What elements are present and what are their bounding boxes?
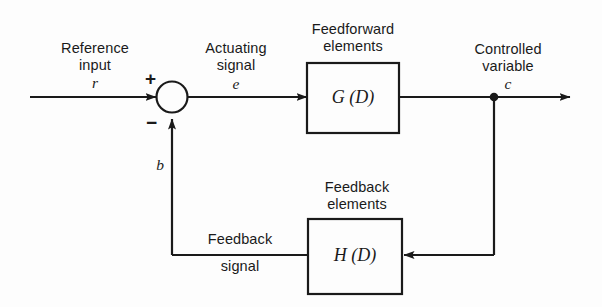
actuating-signal-label: Actuating signal [205, 40, 266, 74]
feedforward-elements-label: Feedforward elements [312, 21, 395, 55]
plus-sign: + [145, 69, 156, 88]
feedback-block-label: H (D) [334, 245, 377, 266]
feedforward-line1: Feedforward [312, 21, 395, 37]
controlled-symbol: c [505, 75, 512, 93]
summing-junction [157, 82, 188, 113]
feedback-signal-label-line1: Feedback [208, 231, 272, 248]
controlled-line1: Controlled [474, 41, 541, 57]
reference-input-line1: Reference [61, 40, 129, 56]
controlled-line2: variable [482, 58, 534, 74]
minus-sign: − [146, 113, 157, 132]
actuating-line2: signal [217, 57, 256, 73]
feedback-elements-label: Feedback elements [325, 179, 389, 213]
feedback-signal-label-line2: signal [221, 258, 260, 275]
feedforward-line2: elements [323, 38, 383, 54]
actuating-line1: Actuating [205, 40, 266, 56]
block-diagram: Reference input r + − Actuating signal e… [0, 0, 602, 307]
reference-input-label: Reference input [61, 40, 129, 74]
feedforward-block-label: G (D) [332, 87, 375, 108]
reference-symbol: r [92, 74, 98, 92]
feedback-symbol: b [156, 156, 164, 174]
controlled-variable-label: Controlled variable [474, 41, 541, 75]
actuating-symbol: e [233, 75, 240, 93]
feedback-elements-line1: Feedback [325, 179, 389, 195]
reference-input-line2: input [79, 57, 111, 73]
feedback-elements-line2: elements [327, 196, 387, 212]
